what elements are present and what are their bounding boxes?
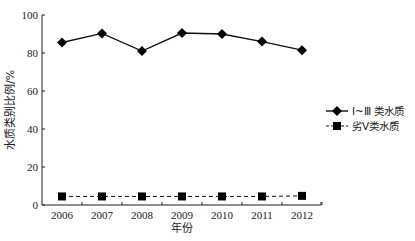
legend-square-icon [333, 122, 341, 130]
y-tick-label: 0 [33, 199, 39, 211]
x-tick-label: 2009 [171, 209, 194, 221]
diamond-marker [137, 46, 147, 56]
square-marker [98, 192, 106, 200]
diamond-marker [57, 38, 67, 48]
x-tick-label: 2011 [251, 209, 273, 221]
x-axis-label: 年份 [171, 221, 193, 235]
square-marker [218, 192, 226, 200]
x-tick-label: 2006 [51, 209, 74, 221]
square-marker [178, 192, 186, 200]
y-tick-label: 100 [22, 9, 39, 21]
diamond-marker [217, 29, 227, 39]
y-tick-label: 80 [27, 47, 39, 59]
x-tick-label: 2007 [91, 209, 114, 221]
legend-label: 劣Ⅴ类水质 [352, 120, 399, 132]
x-tick-label: 2010 [211, 209, 234, 221]
legend-label: Ⅰ~Ⅲ 类水质 [352, 105, 404, 117]
x-tick-label: 2008 [131, 209, 154, 221]
square-marker [138, 192, 146, 200]
legend-diamond-icon [332, 106, 342, 116]
x-tick-label: 2012 [291, 209, 313, 221]
y-tick-label: 60 [27, 85, 39, 97]
legend: Ⅰ~Ⅲ 类水质劣Ⅴ类水质 [326, 105, 404, 132]
y-tick-label: 40 [27, 123, 39, 135]
y-axis-label: 水质类别比例/% [3, 70, 17, 150]
diamond-marker [177, 28, 187, 38]
square-marker [258, 192, 266, 200]
y-tick-label: 20 [27, 161, 39, 173]
diamond-marker [257, 37, 267, 47]
diamond-marker [297, 45, 307, 55]
diamond-marker [97, 28, 107, 38]
line-chart: 0204060801002006200720082009201020112012… [0, 0, 415, 241]
series-layer [57, 28, 307, 200]
square-marker [58, 192, 66, 200]
square-marker [298, 192, 306, 200]
